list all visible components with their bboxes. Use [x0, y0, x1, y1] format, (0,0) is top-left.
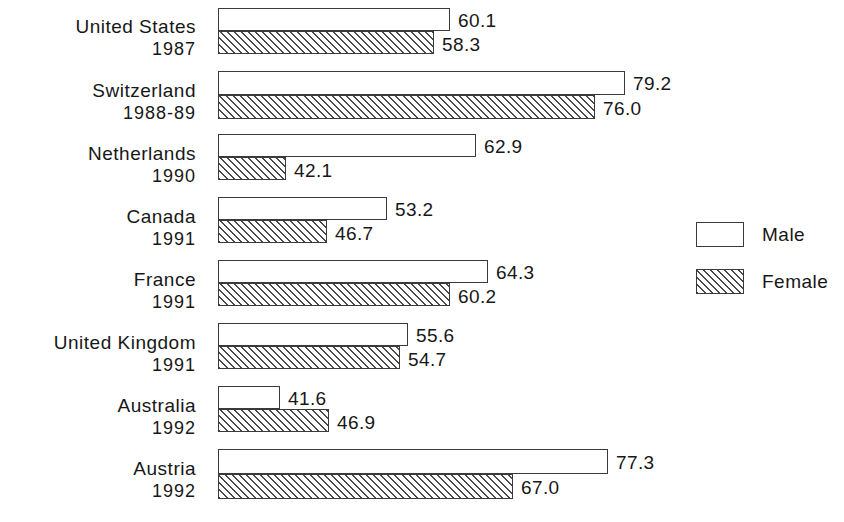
bar-female-4 — [218, 283, 450, 306]
category-name-5: United Kingdom — [54, 332, 196, 354]
category-label-2: Netherlands 1990 — [88, 143, 196, 187]
category-name-4: France — [134, 269, 196, 291]
bar-male-4 — [218, 260, 488, 283]
category-year-2: 1990 — [88, 165, 196, 187]
value-label-male-1: 79.2 — [633, 74, 672, 94]
bar-female-7 — [218, 474, 513, 499]
category-name-7: Austria — [133, 458, 196, 480]
category-label-1: Switzerland 1988-89 — [92, 80, 196, 124]
legend-label-female: Female — [762, 270, 828, 294]
bar-female-6 — [218, 409, 329, 432]
bar-chart-figure: United States 1987 Switzerland 1988-89 N… — [0, 0, 844, 522]
bar-male-2 — [218, 134, 476, 157]
value-label-male-4: 64.3 — [496, 263, 535, 283]
bar-male-0 — [218, 8, 450, 31]
category-label-5: United Kingdom 1991 — [54, 332, 196, 376]
bar-female-1 — [218, 95, 595, 119]
category-label-7: Austria 1992 — [133, 458, 196, 502]
legend-swatch-female-icon — [696, 269, 744, 294]
value-label-male-2: 62.9 — [484, 137, 523, 157]
bar-male-6 — [218, 386, 280, 409]
category-name-3: Canada — [126, 206, 196, 228]
category-year-5: 1991 — [54, 354, 196, 376]
value-label-female-2: 42.1 — [294, 161, 333, 181]
value-label-female-4: 60.2 — [458, 287, 497, 307]
category-year-6: 1992 — [118, 417, 196, 439]
value-label-female-3: 46.7 — [335, 224, 374, 244]
category-year-7: 1992 — [133, 480, 196, 502]
value-label-male-6: 41.6 — [288, 389, 327, 409]
category-name-6: Australia — [118, 395, 196, 417]
bar-male-1 — [218, 71, 625, 95]
value-label-female-1: 76.0 — [603, 99, 642, 119]
category-name-1: Switzerland — [92, 80, 196, 102]
bar-female-0 — [218, 31, 434, 54]
value-label-male-7: 77.3 — [616, 453, 655, 473]
category-name-0: United States — [75, 16, 196, 38]
legend-label-male: Male — [762, 223, 805, 247]
bar-male-5 — [218, 323, 408, 346]
value-label-male-5: 55.6 — [416, 326, 455, 346]
legend-swatch-male-icon — [696, 222, 744, 247]
value-label-male-3: 53.2 — [395, 200, 434, 220]
bar-male-7 — [218, 449, 608, 474]
category-label-6: Australia 1992 — [118, 395, 196, 439]
bar-female-5 — [218, 346, 400, 369]
category-name-2: Netherlands — [88, 143, 196, 165]
value-label-female-6: 46.9 — [337, 413, 376, 433]
category-year-3: 1991 — [126, 228, 196, 250]
category-label-0: United States 1987 — [75, 16, 196, 60]
value-label-male-0: 60.1 — [458, 11, 497, 31]
category-year-1: 1988-89 — [92, 102, 196, 124]
category-label-4: France 1991 — [134, 269, 196, 313]
category-year-4: 1991 — [134, 291, 196, 313]
category-year-0: 1987 — [75, 38, 196, 60]
bar-female-3 — [218, 220, 327, 243]
bar-female-2 — [218, 157, 286, 180]
value-label-female-7: 67.0 — [521, 478, 560, 498]
category-label-3: Canada 1991 — [126, 206, 196, 250]
bar-male-3 — [218, 197, 387, 220]
value-label-female-5: 54.7 — [408, 350, 447, 370]
value-label-female-0: 58.3 — [442, 35, 481, 55]
